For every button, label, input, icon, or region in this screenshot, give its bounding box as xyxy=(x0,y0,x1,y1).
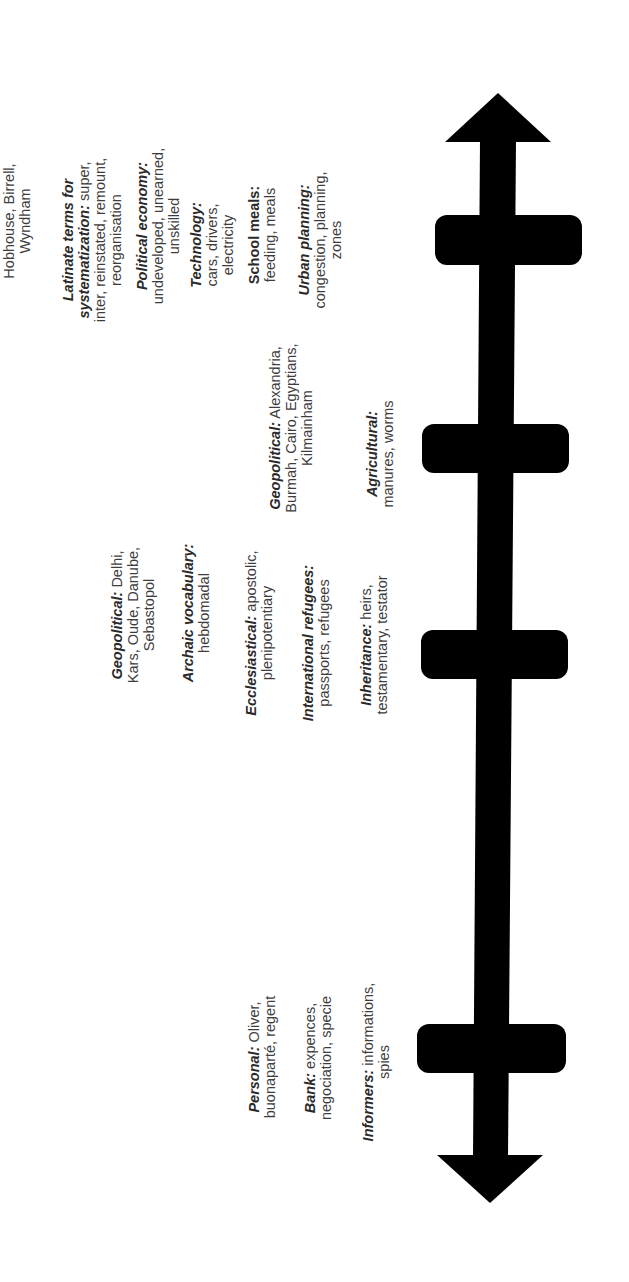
arrow-down-icon xyxy=(437,1155,543,1203)
note-period1-bank: Bank: expences, negociation, specie xyxy=(302,983,334,1133)
note-period4-latinate: Latinate terms for systematization: supe… xyxy=(60,145,124,335)
note-label: Technology: xyxy=(188,202,204,288)
note-label: Political economy: xyxy=(134,162,150,290)
note-period4-technology: Technology: cars, drivers, electricity xyxy=(188,185,236,305)
note-label: Inheritance: xyxy=(358,624,374,706)
note-period3-agricultural: Agricultural: manures, worms xyxy=(364,394,396,514)
note-body: feeding, meals xyxy=(262,188,278,282)
note-label: Urban planning: xyxy=(296,184,312,295)
note-body: hebdomadal xyxy=(196,573,212,653)
note-period2-refugees: International refugees: passports, refug… xyxy=(300,553,332,733)
note-label: Informers: xyxy=(360,1070,376,1142)
note-period1-personal: Personal: Oliver, buonaparté, regent xyxy=(246,985,278,1130)
note-body: congestion, planning, zones xyxy=(312,171,344,308)
note-label: International refugees: xyxy=(300,565,316,721)
note-body: passports, refugees xyxy=(316,579,332,706)
note-label: Personal: xyxy=(246,1047,262,1113)
note-period2-geopolitical: Geopolitical: Delhi, Kars, Oude, Danube,… xyxy=(109,538,157,693)
arrow-up-icon xyxy=(445,93,551,142)
period-marker-3 xyxy=(422,424,569,473)
note-body: manures, worms xyxy=(380,400,396,507)
period-marker-2 xyxy=(421,630,568,679)
note-period4-urban-planning: Urban planning: congestion, planning, zo… xyxy=(296,165,344,315)
note-period2-ecclesiastical: Ecclesiastical: apostolic, plenipotentia… xyxy=(243,546,275,721)
note-body: cars, drivers, electricity xyxy=(204,204,236,287)
note-label: Ecclesiastical: xyxy=(243,616,259,716)
note-period1-informers: Informers: informations, spies xyxy=(360,982,392,1142)
note-body: undeveloped, unearned, unskilled xyxy=(150,148,182,304)
note-period4-school-meals: School meals: feeding, meals xyxy=(246,160,278,310)
note-label: Geopolitical: xyxy=(109,592,125,680)
note-label: Archaic vocabulary: xyxy=(180,544,196,683)
note-period4-names: Hobhouse, Birrell, Wyndham xyxy=(1,156,33,286)
period-marker-1 xyxy=(417,1024,566,1073)
note-label: School meals: xyxy=(246,186,262,284)
period-marker-4 xyxy=(435,215,582,265)
note-label: Geopolitical: xyxy=(267,422,283,510)
note-period2-archaic: Archaic vocabulary: hebdomadal xyxy=(180,538,212,688)
note-label: Agricultural: xyxy=(364,411,380,497)
note-period3-geopolitical: Geopolitical: Alexandria, Burmah, Cairo,… xyxy=(267,341,315,516)
note-period4-political-economy: Political economy: undeveloped, unearned… xyxy=(134,141,182,311)
note-period2-inheritance: Inheritance: heirs, testamentary, testat… xyxy=(358,565,390,725)
note-body: informations, spies xyxy=(360,983,392,1079)
note-label: Bank: xyxy=(302,1073,318,1113)
note-body: Hobhouse, Birrell, Wyndham xyxy=(1,163,33,278)
timeline-diagram: Hobhouse, Birrell, Wyndham Latinate term… xyxy=(0,0,629,1282)
